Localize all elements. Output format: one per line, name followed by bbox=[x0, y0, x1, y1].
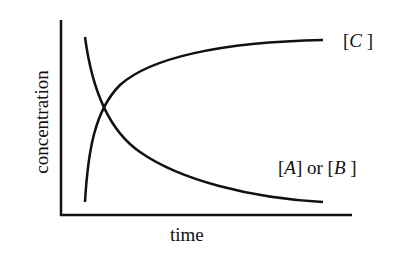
legend-label-a-or-b: [A] or [B ] bbox=[278, 157, 357, 179]
legend-label-c: [C ] bbox=[343, 30, 373, 52]
y-axis-label: concentration bbox=[31, 70, 53, 173]
x-axis-label: time bbox=[170, 224, 204, 246]
